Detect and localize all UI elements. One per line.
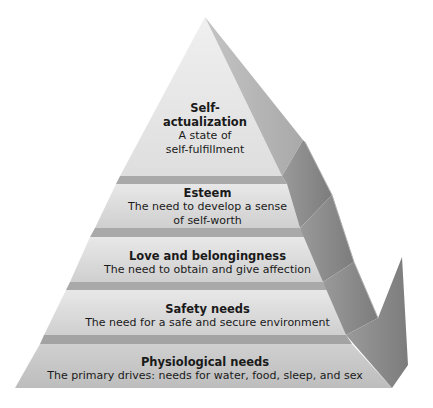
level-title: Physiological needs	[20, 355, 390, 369]
level-description: The need to obtain and give affection	[90, 263, 325, 277]
level-description: The need to develop a sense	[115, 200, 300, 214]
level-description: The need for a safe and secure environme…	[60, 316, 355, 330]
level-esteem-label: Esteem The need to develop a sense of se…	[115, 186, 300, 228]
level-title: Self-	[140, 101, 270, 115]
level-title: Love and belongingness	[90, 249, 325, 263]
level-description: of self-worth	[115, 214, 300, 228]
level-description: self-fulfillment	[140, 143, 270, 157]
level-title: Esteem	[115, 186, 300, 200]
level-title: actualization	[140, 115, 270, 129]
level-physiological-label: Physiological needs The primary drives: …	[20, 355, 390, 383]
level-love-label: Love and belongingness The need to obtai…	[90, 249, 325, 277]
level-description: A state of	[140, 129, 270, 143]
level-title: Safety needs	[60, 302, 355, 316]
level-safety-label: Safety needs The need for a safe and sec…	[60, 302, 355, 330]
level-description: The primary drives: needs for water, foo…	[20, 369, 390, 383]
level-self-actualization-label: Self- actualization A state of self-fulf…	[140, 101, 270, 157]
